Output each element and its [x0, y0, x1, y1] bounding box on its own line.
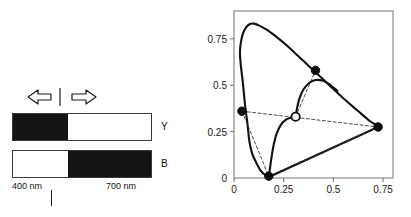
y-tick-label: 0	[221, 173, 227, 184]
x-tick-label: 0.25	[274, 184, 294, 195]
y-tick-label: 0.25	[208, 127, 228, 138]
wavelength-max-label: 700 nm	[106, 181, 136, 191]
figure-root: Y B 400 nm 700 nm 00.250.50.7500.250.50.…	[0, 0, 411, 217]
white-point-marker	[291, 113, 299, 121]
arrow-pair-svg	[25, 86, 100, 108]
wavelength-tick-mark	[51, 190, 52, 206]
chromaticity-diagram-panel: 00.250.50.7500.250.50.75	[200, 0, 411, 217]
primary-point-marker	[265, 172, 273, 180]
series-spectral-locus	[240, 23, 378, 177]
y-tick-label: 0.5	[213, 80, 227, 91]
series-inner-curve-upper	[296, 80, 338, 117]
chart-series-layer	[238, 23, 383, 180]
arrow-pair	[25, 86, 100, 108]
spectral-bars-panel: Y B 400 nm 700 nm	[0, 0, 200, 217]
wavelength-min-label: 400 nm	[12, 181, 42, 191]
series-gamut-triangle	[242, 111, 378, 176]
arrow-right-icon	[72, 90, 96, 104]
series-white-point-spokes	[296, 70, 316, 116]
bar-y-label: Y	[161, 121, 168, 132]
bar-b-dark-region	[68, 151, 151, 177]
x-tick-label: 0	[231, 184, 237, 195]
arrow-left-icon	[28, 90, 51, 104]
chromaticity-chart-svg: 00.250.50.7500.250.50.75	[200, 0, 411, 217]
bar-y-dark-region	[13, 114, 68, 140]
bar-b	[12, 150, 152, 178]
chromaticity-chart: 00.250.50.7500.250.50.75	[200, 0, 411, 217]
primary-point-marker	[374, 123, 382, 131]
primary-point-marker	[238, 107, 246, 115]
x-tick-label: 0.5	[326, 184, 340, 195]
plot-frame	[234, 11, 393, 178]
x-tick-label: 0.75	[373, 184, 393, 195]
bar-b-label: B	[161, 158, 168, 169]
y-tick-label: 0.75	[208, 34, 228, 45]
primary-point-marker	[311, 66, 319, 74]
bar-y	[12, 113, 152, 141]
